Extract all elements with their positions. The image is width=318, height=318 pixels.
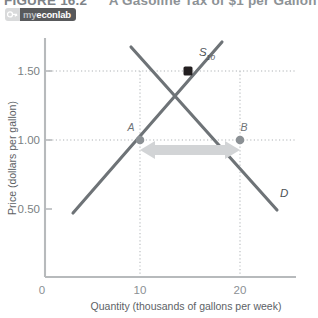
- point-b-label: B: [240, 121, 247, 133]
- point-b-marker: [236, 136, 245, 145]
- y-tick-label-150: 1.50: [18, 65, 40, 77]
- x-axis-title: Quantity (thousands of gallons per week): [91, 300, 282, 312]
- demand-curve-label: D: [280, 187, 288, 199]
- chart-svg: 1.50 1.00 0.50 0 10 20 Price (dollars pe…: [0, 0, 318, 318]
- chart-plot-area: 1.50 1.00 0.50 0 10 20 Price (dollars pe…: [0, 0, 318, 318]
- x-tick-label-10: 10: [134, 284, 147, 296]
- point-a-marker: [136, 136, 145, 145]
- x-tick-label-0: 0: [39, 284, 45, 296]
- point-a-label: A: [126, 121, 134, 133]
- y-tick-label-100: 1.00: [18, 134, 40, 146]
- quantity-gap-arrow: [140, 141, 240, 159]
- axes-group: [45, 38, 296, 277]
- y-axis-title: Price (dollars per gallon): [6, 101, 18, 215]
- x-tick-label-20: 20: [234, 284, 247, 296]
- y-tick-label-050: 0.50: [18, 203, 40, 215]
- arrow-shaft: [152, 145, 228, 155]
- supply-curve-label-subscript: 10: [206, 53, 215, 62]
- arrow-head-right: [225, 141, 240, 159]
- arrow-head-left: [140, 141, 155, 159]
- equilibrium-point-marker: [184, 67, 193, 76]
